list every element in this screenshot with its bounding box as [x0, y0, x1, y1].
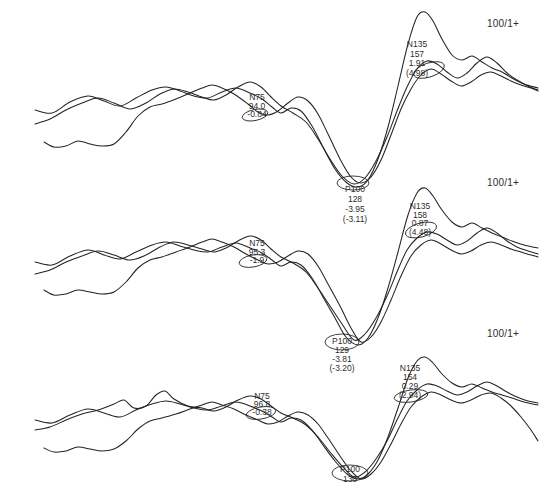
panel-1: N7594.0-0.84P100128-3.95(-3.11)N1351571.… [35, 12, 538, 224]
panel2-trace-2 [35, 228, 538, 340]
panel2-n135-label: N1351580.87(4.48) [409, 201, 431, 237]
panel1-trace-1 [35, 12, 538, 187]
panel1-trace-3 [44, 69, 538, 183]
panel3-trace-3 [44, 392, 538, 479]
vep-report-page: N7594.0-0.84P100128-3.95(-3.11)N1351571.… [0, 0, 544, 496]
stimulus-label-panel3: 100/1+ [487, 328, 519, 339]
panel3-trace-2 [35, 382, 538, 477]
panel2-trace-3 [44, 239, 538, 342]
panel-3: N7596.8-0.38P100130N1351540.29(2.94) [35, 357, 538, 484]
panel-2: N7595.3-1.9P100129-3.81(-3.20)N1351580.8… [35, 188, 538, 373]
stimulus-label-panel2: 100/1+ [487, 177, 519, 188]
panel2-trace-1 [35, 188, 538, 345]
panel1-p100-label: P100128-3.95(-3.11) [343, 184, 368, 224]
vep-waveform-canvas: N7594.0-0.84P100128-3.95(-3.11)N1351571.… [0, 0, 544, 496]
panel3-trace-1 [35, 357, 538, 479]
stimulus-label-panel1: 100/1+ [487, 18, 519, 29]
panel1-trace-2 [35, 57, 538, 184]
